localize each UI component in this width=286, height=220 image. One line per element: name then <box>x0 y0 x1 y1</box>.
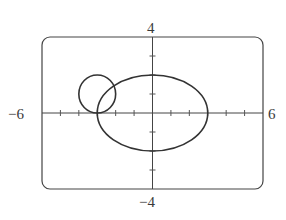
y-max-label: 4 <box>147 20 155 36</box>
graph-figure: −6 6 4 −4 <box>0 0 286 220</box>
x-min-label: −6 <box>8 106 24 122</box>
y-min-label: −4 <box>139 194 155 210</box>
x-max-label: 6 <box>268 106 276 122</box>
